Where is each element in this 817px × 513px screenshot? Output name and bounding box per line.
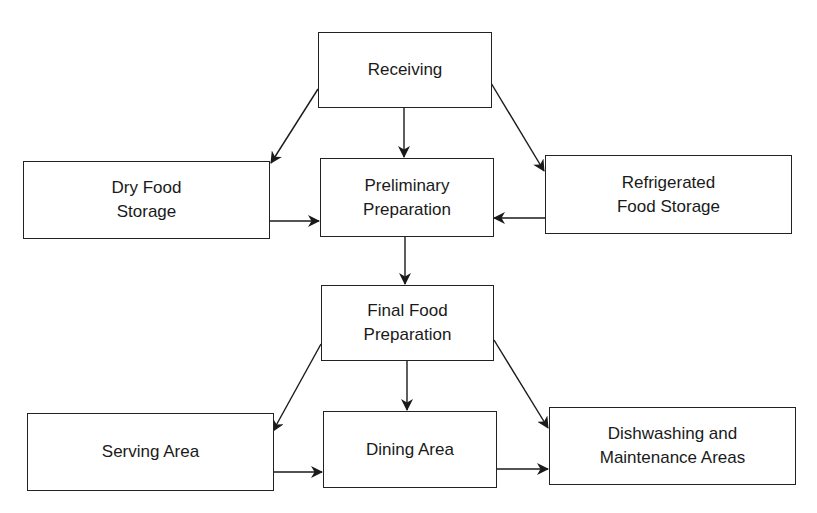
flow-diagram: Receiving Dry Food Storage Preliminary P… [0, 0, 817, 513]
edge-final-to-serving [273, 344, 321, 431]
node-label: Dining Area [366, 438, 454, 462]
node-label: Preparation [364, 323, 452, 347]
node-final-food-preparation: Final Food Preparation [321, 285, 494, 361]
node-dining-area: Dining Area [323, 411, 497, 488]
node-dry-food-storage: Dry Food Storage [23, 161, 270, 239]
node-label: Storage [112, 200, 182, 224]
node-label: Preparation [363, 198, 451, 222]
node-dishwashing-maintenance: Dishwashing and Maintenance Areas [549, 407, 796, 485]
node-receiving: Receiving [318, 32, 492, 108]
node-label: Maintenance Areas [600, 446, 746, 470]
node-refrigerated-food-storage: Refrigerated Food Storage [545, 155, 792, 234]
node-label: Preliminary [363, 174, 451, 198]
node-preliminary-preparation: Preliminary Preparation [320, 158, 494, 237]
edge-receiving-to-refrigerated [491, 83, 544, 171]
edge-receiving-to-dry-storage [271, 89, 318, 163]
node-label: Receiving [368, 58, 443, 82]
node-serving-area: Serving Area [27, 413, 274, 491]
node-label: Final Food [364, 299, 452, 323]
node-label: Dishwashing and [600, 422, 746, 446]
edge-final-to-dishwashing [494, 340, 548, 428]
node-label: Food Storage [617, 195, 720, 219]
node-label: Refrigerated [617, 171, 720, 195]
node-label: Dry Food [112, 176, 182, 200]
node-label: Serving Area [102, 440, 199, 464]
